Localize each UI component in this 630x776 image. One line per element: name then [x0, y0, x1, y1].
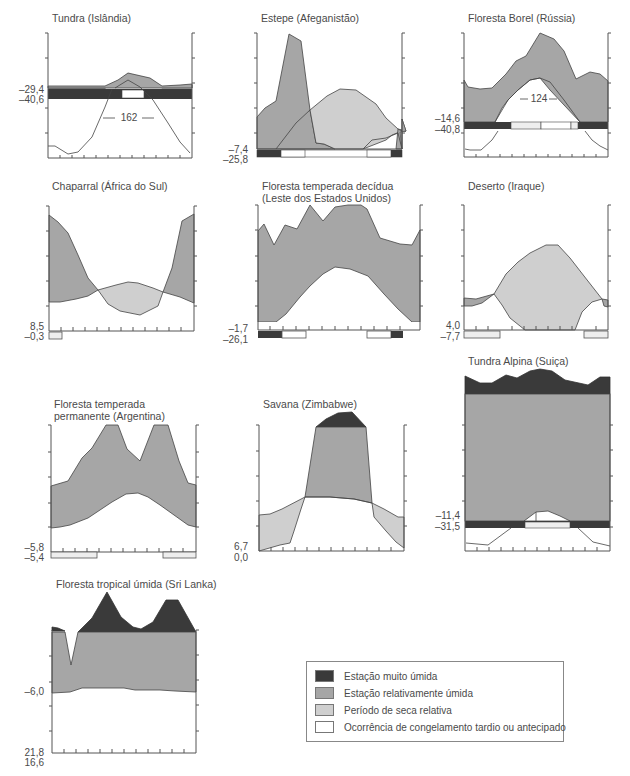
- legend-item-frost: Ocorrência de congelamento tardio ou ant…: [315, 720, 566, 734]
- legend-label: Estação relativamente úmida: [344, 688, 473, 699]
- legend-item-very-wet: Estação muito úmida: [315, 669, 437, 683]
- swatch-very-wet: [315, 670, 334, 682]
- swatch-relatively-wet: [315, 687, 334, 699]
- legend-label: Ocorrência de congelamento tardio ou ant…: [344, 722, 566, 733]
- swatch-frost: [315, 721, 334, 733]
- legend-item-relative-dry: Período de seca relativa: [315, 703, 452, 717]
- legend-label: Estação muito úmida: [344, 671, 437, 682]
- legend-item-relatively-wet: Estação relativamente úmida: [315, 686, 473, 700]
- legend: Estação muito úmida Estação relativament…: [306, 661, 564, 742]
- legend-label: Período de seca relativa: [344, 705, 452, 716]
- tropical-chart: [0, 0, 630, 776]
- swatch-relative-dry: [315, 704, 334, 716]
